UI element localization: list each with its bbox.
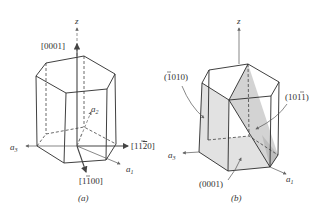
- dir-1-100-label: [1100]: [79, 176, 103, 186]
- edge: [278, 82, 279, 155]
- prism-plane-label: (1010): [164, 72, 188, 82]
- c-axis-label: [0001]: [41, 41, 65, 51]
- edge: [106, 89, 107, 160]
- dir-11-20-label: [1120]: [131, 141, 155, 151]
- caption-b: (b): [231, 193, 242, 203]
- top-hexagon: [36, 56, 115, 93]
- panel-b: z a3 a1 (1010) (1011) (0001): [164, 16, 309, 203]
- a1-label-a: a1: [126, 164, 134, 175]
- edge: [36, 76, 37, 146]
- caption-a: (a): [78, 193, 89, 203]
- a3-axis-b: [183, 152, 199, 153]
- dir-1-100-arrow: [77, 146, 86, 172]
- a2-label: a2: [91, 104, 99, 115]
- z-label-b: z: [236, 16, 241, 26]
- edge: [64, 93, 66, 163]
- a3-label-b: a3: [168, 150, 176, 161]
- hcp-miller-bravais-diagram: z [0001] a2 a3 [1120] a1 [1100] (a) z: [0, 0, 326, 215]
- panel-a: z [0001] a2 a3 [1120] a1 [1100] (a): [10, 16, 155, 203]
- axis-dash: [77, 133, 82, 146]
- bottom-front-edges: [37, 144, 116, 163]
- a1-axis-b: [270, 167, 286, 174]
- a1-label-b: a1: [286, 174, 294, 185]
- z-label-a: z: [74, 16, 79, 26]
- prism-plane-1010: [199, 83, 229, 171]
- edge: [115, 74, 116, 144]
- pyramidal-plane-label: (1011): [285, 92, 309, 102]
- a3-label: a3: [10, 142, 18, 153]
- basal-plane-label: (0001): [199, 179, 223, 189]
